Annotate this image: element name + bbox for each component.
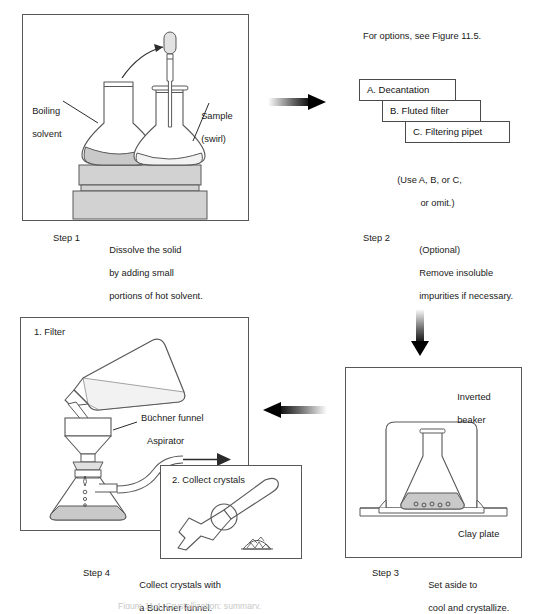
aspirator-label: Aspirator xyxy=(147,436,184,447)
crystal-pile xyxy=(241,537,273,549)
step2-label: Step 2 xyxy=(363,233,390,245)
filter-flask xyxy=(50,470,126,520)
option-b-box[interactable]: B. Fluted filter xyxy=(382,100,481,122)
step2-usage-line2: or omit.) xyxy=(420,198,454,210)
option-c-label: C. Filtering pipet xyxy=(413,127,482,137)
sample-label-line2: (swirl) xyxy=(201,134,226,144)
option-b-label: B. Fluted filter xyxy=(390,106,449,116)
step1-description: Dissolve the solid by adding small porti… xyxy=(104,233,203,303)
option-c-box[interactable]: C. Filtering pipet xyxy=(405,121,510,143)
step2-description-line3: impurities if necessary. xyxy=(419,291,513,301)
figure-caption: Figure 11.4 Crystallization: summary. xyxy=(118,601,448,609)
option-a-label: A. Decantation xyxy=(367,85,429,95)
step2-description-line2: Remove insoluble xyxy=(419,268,493,278)
option-a-box[interactable]: A. Decantation xyxy=(359,79,456,101)
boiling-solvent-label-line2: solvent xyxy=(32,129,61,139)
step4-label: Step 4 xyxy=(83,568,110,580)
boiling-solvent-leader xyxy=(63,101,98,123)
boiling-solvent-label: Boiling solvent xyxy=(27,95,62,140)
step1-description-line1: Dissolve the solid xyxy=(109,245,181,255)
transfer-arrow xyxy=(122,44,163,78)
clay-plate-label: Clay plate xyxy=(458,529,499,540)
inverted-beaker-label: Inverted beaker xyxy=(452,381,491,426)
pouring-flask xyxy=(65,339,185,422)
step3-label: Step 3 xyxy=(372,568,399,580)
step2-figure-note: For options, see Figure 11.5. xyxy=(363,31,481,41)
sample-label: Sample (swirl) xyxy=(196,100,233,145)
sample-label-line1: Sample xyxy=(201,111,233,121)
step2-usage-line1: (Use A, B, or C, xyxy=(397,175,462,185)
buchner-funnel-leader xyxy=(113,422,137,430)
step4-description-line1: Collect crystals with xyxy=(139,580,221,590)
arrow-step2-to-step3 xyxy=(408,309,432,359)
arrow-step3-to-step4 xyxy=(259,400,331,424)
collect-crystals-inset-title: 2. Collect crystals xyxy=(172,475,245,486)
step1-description-line2: by adding small xyxy=(109,268,174,278)
buchner-funnel-label: Büchner funnel xyxy=(141,413,204,424)
step2-description-line1: (Optional) xyxy=(419,245,460,255)
step2-description: (Optional) Remove insoluble impurities i… xyxy=(414,233,513,303)
step3-description-line1: Set aside to xyxy=(428,580,477,590)
step2-usage-note: (Use A, B, or C, or omit.) xyxy=(392,163,462,209)
crystallizing-flask xyxy=(401,429,464,509)
inverted-beaker-label-line2: beaker xyxy=(457,415,485,425)
step4-panel-title: 1. Filter xyxy=(34,327,65,338)
arrow-step1-to-step2 xyxy=(268,92,330,116)
buchner-funnel xyxy=(65,418,111,470)
inverted-beaker-label-line1: Inverted xyxy=(457,392,491,402)
step1-description-line3: portions of hot solvent. xyxy=(109,291,203,301)
step1-label: Step 1 xyxy=(53,233,80,245)
boiling-solvent-label-line1: Boiling xyxy=(32,106,60,116)
spatula xyxy=(178,478,278,550)
